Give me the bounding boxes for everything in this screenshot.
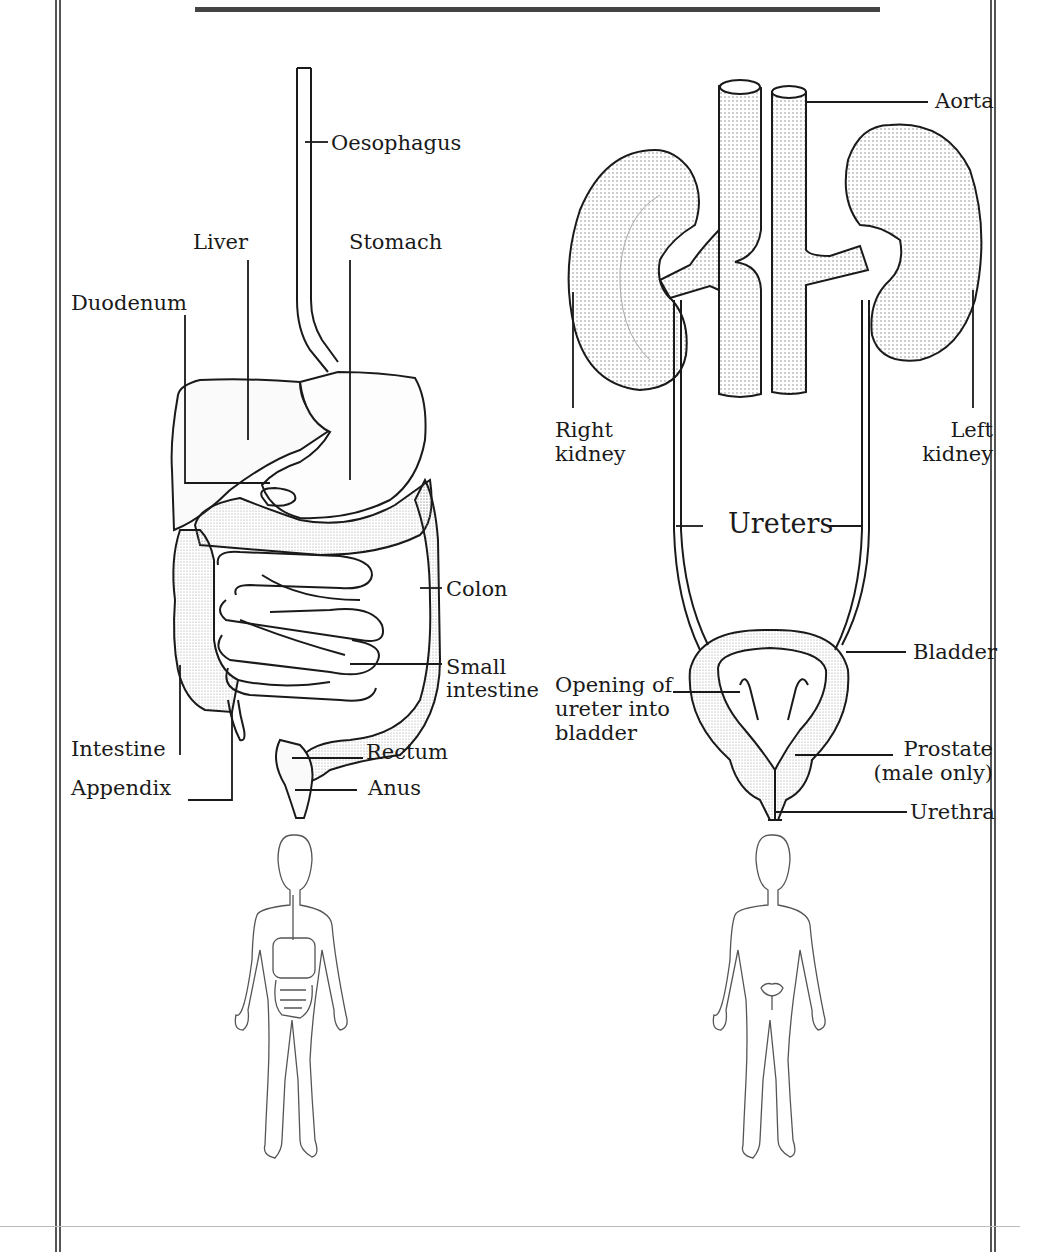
label-intestine: Intestine <box>71 737 166 761</box>
label-opening-line1: Opening of <box>555 673 672 697</box>
label-left-kidney-line1: Left <box>900 418 993 442</box>
oesophagus-shape <box>297 68 338 372</box>
label-duodenum: Duodenum <box>71 291 187 315</box>
aorta-shape <box>772 92 868 394</box>
body-outline-urinary <box>713 835 825 1158</box>
label-bladder: Bladder <box>913 640 997 664</box>
label-appendix: Appendix <box>71 776 171 800</box>
label-small-intestine-line2: intestine <box>446 678 539 702</box>
label-right-kidney-line2: kidney <box>555 442 626 466</box>
small-intestine-shape <box>218 552 383 701</box>
label-prostate-line1: Prostate <box>860 737 993 761</box>
label-oesophagus: Oesophagus <box>331 131 461 155</box>
appendix-leader <box>188 712 232 800</box>
label-opening-line3: bladder <box>555 721 637 745</box>
left-kidney-shape <box>846 125 982 361</box>
label-left-kidney-line2: kidney <box>900 442 993 466</box>
vena-cava-shape <box>719 82 761 397</box>
label-urethra: Urethra <box>910 800 995 824</box>
label-opening-line2: ureter into <box>555 697 670 721</box>
label-small-intestine-line1: Small <box>446 655 506 679</box>
label-colon: Colon <box>446 577 508 601</box>
label-anus: Anus <box>368 776 421 800</box>
label-prostate-line2: (male only) <box>860 761 993 785</box>
label-aorta: Aorta <box>935 89 994 113</box>
label-ureters: Ureters <box>728 512 833 536</box>
label-rectum: Rectum <box>366 740 448 764</box>
digestive-system-drawing <box>172 68 440 818</box>
label-liver: Liver <box>193 230 248 254</box>
label-stomach: Stomach <box>349 230 442 254</box>
label-right-kidney-line1: Right <box>555 418 613 442</box>
anatomy-illustration <box>0 0 1063 1252</box>
body-outline-digestive <box>235 835 347 1158</box>
